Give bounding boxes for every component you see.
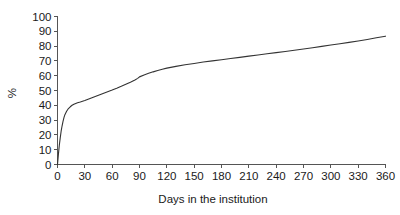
x-tick-label: 210 [239, 170, 258, 182]
chart-figure: 0306090120150180210240270300330360 01020… [0, 0, 400, 215]
x-tick-label: 240 [267, 170, 286, 182]
x-tick-label: 120 [157, 170, 176, 182]
x-axis-title: Days in the institution [158, 193, 267, 205]
x-tick-label: 0 [54, 170, 60, 182]
data-series-line [58, 36, 386, 164]
x-tick-label: 180 [212, 170, 231, 182]
x-tick-label: 360 [376, 170, 395, 182]
y-tick-label: 10 [39, 144, 52, 156]
y-tick-label: 30 [39, 114, 52, 126]
y-tick-labels: 0102030405060708090100 [32, 11, 51, 171]
y-tick-label: 90 [39, 25, 52, 37]
x-tick-label: 30 [78, 170, 91, 182]
y-tick-label: 100 [32, 11, 51, 23]
x-tick-label: 60 [106, 170, 119, 182]
x-tick-labels: 0306090120150180210240270300330360 [54, 170, 395, 182]
line-chart: 0306090120150180210240270300330360 01020… [0, 0, 400, 215]
x-tick-label: 330 [349, 170, 368, 182]
axes-group [54, 17, 386, 169]
y-tick-label: 70 [39, 55, 52, 67]
y-tick-label: 80 [39, 40, 52, 52]
y-tick-label: 20 [39, 129, 52, 141]
y-tick-label: 50 [39, 85, 52, 97]
x-tick-label: 150 [185, 170, 204, 182]
x-tick-label: 90 [133, 170, 146, 182]
x-tick-label: 300 [321, 170, 340, 182]
x-tick-label: 270 [294, 170, 313, 182]
y-tick-label: 60 [39, 70, 52, 82]
y-tick-label: 40 [39, 99, 52, 111]
y-axis-title: % [6, 88, 18, 98]
y-tick-label: 0 [45, 159, 51, 171]
